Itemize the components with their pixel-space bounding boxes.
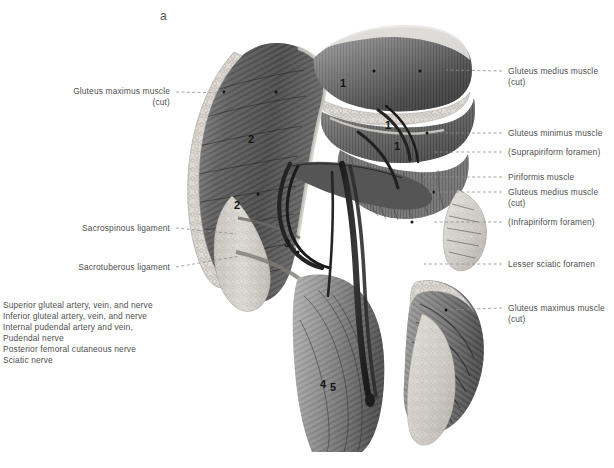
legend-item: Superior gluteal artery, vein, and nerve (3, 300, 153, 311)
label-sacrospinous-ligament: Sacrospinous ligament (0, 223, 170, 234)
label-line-1: Gluteus maximus muscle (73, 86, 170, 96)
legend-item: Sciatic nerve (3, 355, 153, 366)
label-suprapiriform-foramen: (Suprapiriform foramen) (508, 147, 600, 158)
marker-1-superior-gluteal-a: 1 (340, 78, 346, 89)
label-line-1: Gluteus minimus muscle (508, 128, 603, 138)
label-piriformis-muscle: Piriformis muscle (508, 172, 574, 183)
figure-page: a (0, 0, 614, 468)
marker-3-internal-pudendal: 3 (284, 238, 290, 249)
label-line-1: Gluteus medius muscle (508, 66, 598, 76)
label-gluteus-minimus-muscle: Gluteus minimus muscle (508, 128, 603, 139)
label-gluteus-medius-cut-lower: Gluteus medius muscle (cut) (508, 187, 598, 208)
label-line-1: Sacrotuberous ligament (78, 262, 170, 272)
marker-2-inferior-gluteal-a: 2 (248, 134, 254, 145)
marker-2-inferior-gluteal-b: 2 (234, 200, 240, 211)
label-line-1: Piriformis muscle (508, 172, 574, 182)
figure-letter: a (160, 9, 167, 23)
label-line-1: Gluteus maximus muscle (508, 303, 605, 313)
structure-legend: Superior gluteal artery, vein, and nerve… (3, 300, 153, 367)
marker-4-posterior-femoral-cutaneous: 4 (320, 379, 326, 390)
label-infrapiriform-foramen: (Infrapiriform foramen) (508, 217, 595, 228)
label-gluteus-medius-cut-upper: Gluteus medius muscle (cut) (508, 66, 598, 87)
label-line-1: Sacrospinous ligament (82, 223, 170, 233)
label-gluteus-maximus-cut-left: Gluteus maximus muscle (cut) (0, 86, 170, 107)
gluteus-medius-upper (314, 25, 472, 125)
label-line-2: (cut) (508, 314, 605, 325)
marker-1-superior-gluteal-b: 1 (385, 120, 391, 131)
marker-1-superior-gluteal-c: 1 (394, 141, 400, 152)
label-line-1: (Infrapiriform foramen) (508, 217, 595, 227)
label-line-1: (Suprapiriform foramen) (508, 147, 600, 157)
legend-item: Inferior gluteal artery, vein, and nerve (3, 311, 153, 322)
legend-item: Pudendal nerve (3, 333, 153, 344)
marker-5-sciatic-nerve: 5 (330, 382, 336, 393)
label-line-2: (cut) (508, 198, 598, 209)
label-line-1: Gluteus medius muscle (508, 187, 598, 197)
label-lesser-sciatic-foramen: Lesser sciatic foramen (508, 259, 595, 270)
label-sacrotuberous-ligament: Sacrotuberous ligament (0, 262, 170, 273)
label-line-1: Lesser sciatic foramen (508, 259, 595, 269)
label-gluteus-maximus-cut-right: Gluteus maximus muscle (cut) (508, 303, 605, 324)
legend-item: Internal pudendal artery and vein, (3, 322, 153, 333)
label-line-2: (cut) (508, 77, 598, 88)
label-line-2: (cut) (0, 97, 170, 108)
legend-item: Posterior femoral cutaneous nerve (3, 344, 153, 355)
